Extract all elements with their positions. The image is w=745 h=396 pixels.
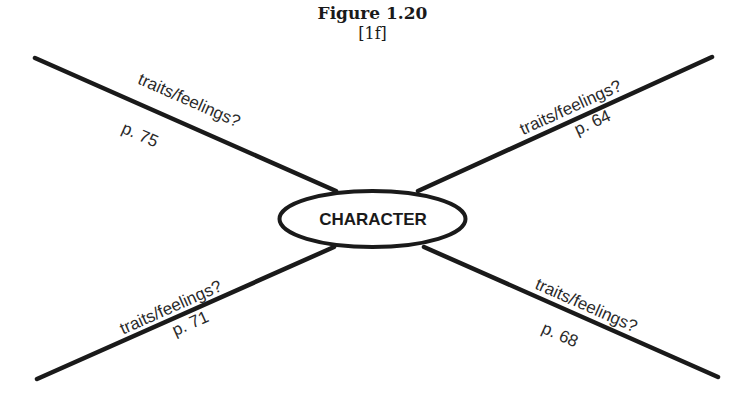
center-node-label: CHARACTER	[319, 210, 427, 229]
branch-line-bottom-left	[37, 247, 334, 379]
character-web-diagram: CHARACTER traits/feelings? p. 75 traits/…	[0, 0, 745, 396]
branch-page-top-left: p. 75	[119, 119, 161, 152]
branch-label-top-left: traits/feelings?	[135, 70, 243, 132]
branch-line-top-left	[35, 58, 336, 191]
branch-page-bottom-right: p. 68	[539, 319, 581, 352]
branch-label-top-right: traits/feelings?	[517, 76, 625, 139]
branch-label-bottom-left: traits/feelings?	[117, 276, 225, 338]
branch-line-bottom-right	[424, 247, 718, 377]
branch-line-top-right	[418, 57, 712, 191]
